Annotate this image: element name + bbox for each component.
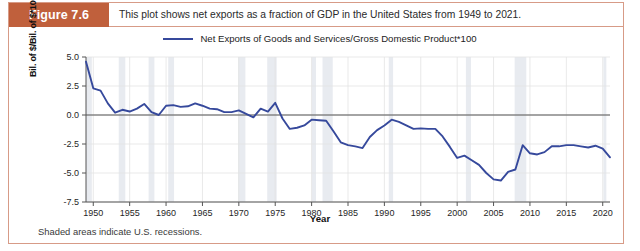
y-tick-label: 0.0: [66, 110, 79, 120]
y-axis-label: Bil. of $/Bil. of $*100: [28, 63, 38, 77]
line-chart-svg: 5.02.50.0-2.5-5.0-7.5 195019551960196519…: [0, 48, 640, 223]
chart-legend: Net Exports of Goods and Services/Gross …: [0, 33, 640, 44]
y-tick-label: -5.0: [63, 168, 79, 178]
legend-entry-label: Net Exports of Goods and Services/Gross …: [200, 33, 476, 44]
recession-band: [603, 57, 606, 202]
recession-band: [149, 57, 155, 202]
grid-lines: [86, 57, 610, 202]
figure-header: Figure 7.6 This plot shows net exports a…: [9, 3, 623, 27]
figure-caption: This plot shows net exports as a fractio…: [109, 3, 623, 27]
y-tick-label: 5.0: [66, 52, 79, 62]
legend-line-swatch: [163, 38, 193, 40]
figure-number-badge: Figure 7.6: [9, 3, 109, 27]
recession-band: [389, 57, 393, 202]
figure-footnote: Shaded areas indicate U.S. recessions.: [38, 226, 202, 237]
recession-bands: [86, 57, 606, 202]
y-tick-labels: 5.02.50.0-2.5-5.0-7.5: [63, 52, 86, 207]
plot-area-wrapper: 5.02.50.0-2.5-5.0-7.5 195019551960196519…: [0, 48, 640, 223]
y-tick-label: -7.5: [63, 197, 79, 207]
x-axis-label: Year: [0, 213, 640, 224]
recession-band: [168, 57, 174, 202]
figure-container: Figure 7.6 This plot shows net exports a…: [0, 0, 640, 251]
recession-band: [466, 57, 471, 202]
y-tick-label: -2.5: [63, 139, 79, 149]
y-tick-label: 2.5: [66, 81, 79, 91]
recession-band: [515, 57, 527, 202]
recession-band: [312, 57, 316, 202]
recession-band: [119, 57, 126, 202]
